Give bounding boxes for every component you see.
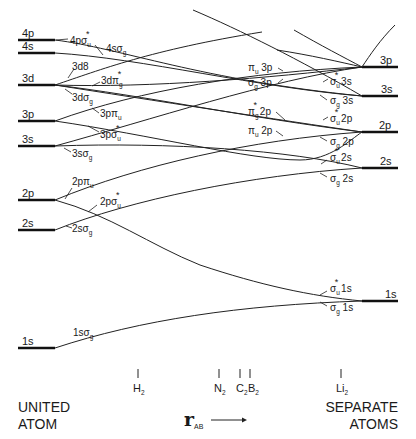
sa-orbital-sigma-u-star-3s: σu* 3s (330, 70, 352, 89)
ua-orbital-4p-sigma-u-star: 4pσu* (70, 29, 91, 48)
ua-label-2s: 2s (22, 217, 34, 229)
curve-2p-sigma-u-star (55, 200, 362, 301)
separate-atoms-title-line2: ATOMS (350, 416, 399, 432)
curve-1s-sigma-g (55, 301, 362, 348)
separate-atoms-title-line1: SEPARATE (325, 399, 398, 415)
ua-orbital-labels: 4pσu* 4sσg 3d8 3dπg* 3dσg 3pπu 3pσu* 3sσ… (56, 29, 127, 341)
sa-label-1s: 1s (385, 288, 397, 300)
united-atom-title-line2: ATOM (18, 416, 57, 432)
sa-orbital-pi-u-3p: πu 3p (248, 62, 273, 75)
arrow-head-icon (242, 418, 247, 423)
sa-label-3s: 3s (381, 83, 393, 95)
molecule-h2: H2 (133, 382, 145, 396)
ua-label-2p: 2p (22, 187, 34, 199)
ua-orbital-2p-pi-u: 2pπu (72, 176, 94, 189)
molecule-c2: C2 (236, 382, 248, 396)
curve-4p-sigma-u-star (55, 40, 362, 96)
sa-orbital-sigma-u-star-2s: σu* 2s (330, 146, 352, 165)
curve-upper-3 (277, 50, 362, 67)
sa-orbital-sigma-g-1s: σg 1s (330, 302, 353, 316)
sa-label-2p: 2p (379, 119, 391, 131)
united-atom-levels: 4p 4s 3d 3p 3s 2p 2s 1s (18, 27, 55, 348)
sa-orbital-sigma-g-3p: σg 3p (248, 77, 272, 91)
ua-orbital-3p-sigma-u-star: 3pσu* (100, 123, 121, 142)
sa-label-2s: 2s (380, 155, 392, 167)
sa-orbital-labels: πu 3p σg 3p σu* 3s σg 3s πg* 2p σu* 2p π… (248, 62, 354, 316)
molecule-li2: Li2 (336, 382, 349, 396)
united-atom-title-line1: UNITED (18, 399, 70, 415)
ua-orbital-3d-sigma-g: 3dσg (72, 92, 93, 106)
ua-label-4s: 4s (22, 40, 34, 52)
molecule-b2: B2 (248, 382, 259, 396)
ua-orbital-2p-sigma-u-star: 2pσu* (100, 190, 121, 209)
separate-atom-levels: 3p 3s 2p 2s 1s (362, 54, 398, 301)
sa-label-3p: 3p (380, 54, 392, 66)
sa-orbital-sigma-g-3s: σg 3s (330, 95, 353, 109)
ua-orbital-3s-sigma-g: 3sσg (72, 148, 93, 162)
molecule-markers: H2 N2 C2 B2 Li2 (133, 369, 349, 396)
sa-orbital-sigma-u-star-2p: σu* 2p (330, 107, 353, 126)
curve-upper-2 (294, 30, 362, 67)
ua-orbital-2s-sigma-g: 2sσg (72, 223, 93, 237)
sa-orbital-sigma-u-star-1s: σu* 1s (330, 277, 352, 296)
ua-label-3s: 3s (22, 133, 34, 145)
ua-orbital-3d-delta: 3d8 (72, 61, 89, 72)
molecule-n2: N2 (214, 382, 226, 396)
ua-orbital-4s-sigma-g: 4sσg (106, 43, 127, 57)
ua-label-3p: 3p (22, 108, 34, 120)
ua-orbital-3p-pi-u: 3pπu (100, 108, 122, 121)
sa-orbital-pi-u-2p: πu 2p (248, 125, 273, 138)
correlation-diagram: 4p 4s 3d 3p 3s 2p 2s 1s 3p 3s 2p 2s 1s (0, 0, 416, 439)
r-ab-symbol: rAB (184, 408, 204, 430)
curve-2p-pi-u (55, 132, 362, 200)
ua-label-4p: 4p (22, 27, 34, 39)
ua-label-3d: 3d (22, 72, 34, 84)
ua-label-1s: 1s (22, 335, 34, 347)
sa-orbital-sigma-g-2p: σg 2p (330, 136, 354, 150)
sa-orbital-sigma-g-2s: σg 2s (330, 173, 353, 187)
axis-titles: UNITED ATOM rAB SEPARATE ATOMS (18, 399, 398, 432)
